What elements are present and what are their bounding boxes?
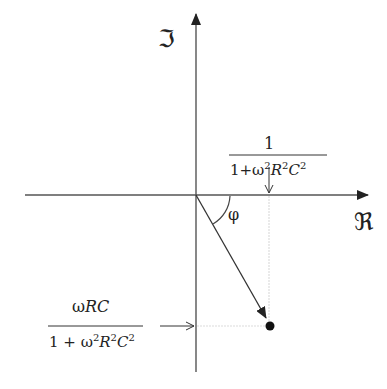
real-part-numerator: 1 <box>264 134 274 153</box>
real-axis-label: ℜ <box>354 208 374 236</box>
real-part-denominator: 1+ω2R2C2 <box>230 160 306 179</box>
angle-label: φ <box>228 205 239 224</box>
imaginary-axis-label: ℑ <box>158 25 175 53</box>
phasor-diagram: ℑ ℜ φ 1 1+ω2R2C2 ωRC 1 + ω2R2C2 <box>0 0 387 389</box>
imag-part-denominator: 1 + ω2R2C2 <box>49 332 135 351</box>
imag-part-numerator: ωRC <box>72 297 109 316</box>
phasor-point <box>266 322 275 331</box>
